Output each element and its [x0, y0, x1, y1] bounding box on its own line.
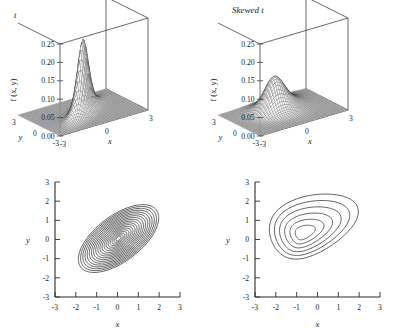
svg-text:0.05: 0.05: [41, 113, 54, 122]
svg-text:y: y: [218, 132, 223, 142]
svg-text:-3: -3: [252, 303, 259, 312]
svg-text:2: 2: [157, 303, 161, 312]
svg-text:1: 1: [45, 216, 49, 225]
svg-text:x: x: [315, 319, 320, 329]
svg-text:1: 1: [136, 303, 140, 312]
svg-text:2: 2: [45, 197, 49, 206]
svg-text:y: y: [25, 235, 30, 245]
svg-text:-3: -3: [52, 303, 59, 312]
svg-text:2: 2: [357, 303, 361, 312]
svg-text:3: 3: [12, 118, 16, 127]
svg-text:x: x: [107, 136, 112, 146]
svg-text:-3: -3: [53, 139, 60, 148]
svg-text:-2: -2: [43, 274, 50, 283]
surface-svg-left: 0.250.200.150.100.050.00f (x, y)-303x30-…: [0, 18, 205, 168]
svg-text:0.05: 0.05: [241, 113, 254, 122]
svg-text:0.25: 0.25: [241, 40, 254, 49]
figure-root: t Skewed t 0.250.200.150.100.050.00f (x,…: [0, 0, 405, 329]
svg-text:1: 1: [245, 216, 249, 225]
svg-text:0: 0: [116, 303, 120, 312]
svg-text:-3: -3: [243, 293, 250, 302]
svg-text:-3: -3: [253, 139, 260, 148]
svg-text:-3: -3: [260, 140, 267, 149]
contour-plot-left: -3-2-101233210-1-2-3xy: [0, 172, 205, 329]
svg-text:-1: -1: [243, 254, 250, 263]
svg-text:1: 1: [336, 303, 340, 312]
svg-text:3: 3: [378, 303, 382, 312]
svg-text:y: y: [18, 132, 23, 142]
svg-text:0: 0: [105, 127, 109, 136]
svg-text:0: 0: [33, 129, 37, 138]
svg-text:3: 3: [45, 178, 49, 187]
svg-text:3: 3: [149, 114, 153, 123]
surface-plot-right: 0.250.200.150.100.050.00f (x, y)-303x30-…: [200, 18, 405, 168]
svg-text:3: 3: [178, 303, 182, 312]
svg-text:0.25: 0.25: [41, 40, 54, 49]
svg-text:-1: -1: [294, 303, 301, 312]
svg-text:0.10: 0.10: [41, 95, 54, 104]
svg-text:3: 3: [212, 118, 216, 127]
svg-text:-2: -2: [273, 303, 280, 312]
svg-text:0.15: 0.15: [241, 76, 254, 85]
svg-text:0: 0: [233, 129, 237, 138]
svg-text:-2: -2: [243, 274, 250, 283]
svg-text:0: 0: [45, 235, 49, 244]
svg-text:3: 3: [245, 178, 249, 187]
svg-text:0: 0: [316, 303, 320, 312]
surface-plot-left: 0.250.200.150.100.050.00f (x, y)-303x30-…: [0, 18, 205, 168]
svg-text:-3: -3: [60, 140, 67, 149]
svg-text:x: x: [115, 319, 120, 329]
svg-text:x: x: [307, 136, 312, 146]
svg-text:0.15: 0.15: [41, 76, 54, 85]
contour-plot-right: -3-2-101233210-1-2-3xy: [200, 172, 405, 329]
svg-text:0: 0: [245, 235, 249, 244]
surface-svg-right: 0.250.200.150.100.050.00f (x, y)-303x30-…: [200, 18, 405, 168]
svg-text:-2: -2: [73, 303, 80, 312]
svg-text:0.20: 0.20: [241, 58, 254, 67]
svg-text:f (x, y): f (x, y): [209, 78, 218, 101]
contour-svg-right: -3-2-101233210-1-2-3xy: [200, 172, 405, 329]
svg-text:y: y: [225, 235, 230, 245]
svg-text:0.20: 0.20: [41, 58, 54, 67]
svg-text:-1: -1: [43, 254, 50, 263]
svg-text:-3: -3: [43, 293, 50, 302]
svg-text:3: 3: [349, 114, 353, 123]
svg-text:0: 0: [305, 127, 309, 136]
panel-title-right: Skewed t: [232, 5, 264, 15]
svg-text:2: 2: [245, 197, 249, 206]
svg-text:0.10: 0.10: [241, 95, 254, 104]
contour-svg-left: -3-2-101233210-1-2-3xy: [0, 172, 205, 329]
svg-text:-1: -1: [94, 303, 101, 312]
svg-text:f (x, y): f (x, y): [9, 78, 18, 101]
